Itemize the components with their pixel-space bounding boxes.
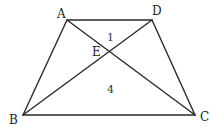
diagonal-bd — [23, 20, 152, 115]
vertex-label-c: C — [200, 110, 209, 124]
vertex-label-d: D — [152, 4, 162, 18]
diagonal-ac — [67, 20, 195, 115]
vertex-label-b: B — [9, 113, 18, 127]
region-label-bec: 4 — [107, 83, 114, 96]
segment-ba — [23, 20, 67, 115]
intersection-label-e: E — [92, 45, 101, 59]
trapezoid-diagram: A D B C E 1 4 — [0, 0, 220, 129]
segment-dc — [152, 20, 195, 115]
region-label-aed: 1 — [107, 31, 114, 44]
vertex-label-a: A — [56, 7, 66, 21]
